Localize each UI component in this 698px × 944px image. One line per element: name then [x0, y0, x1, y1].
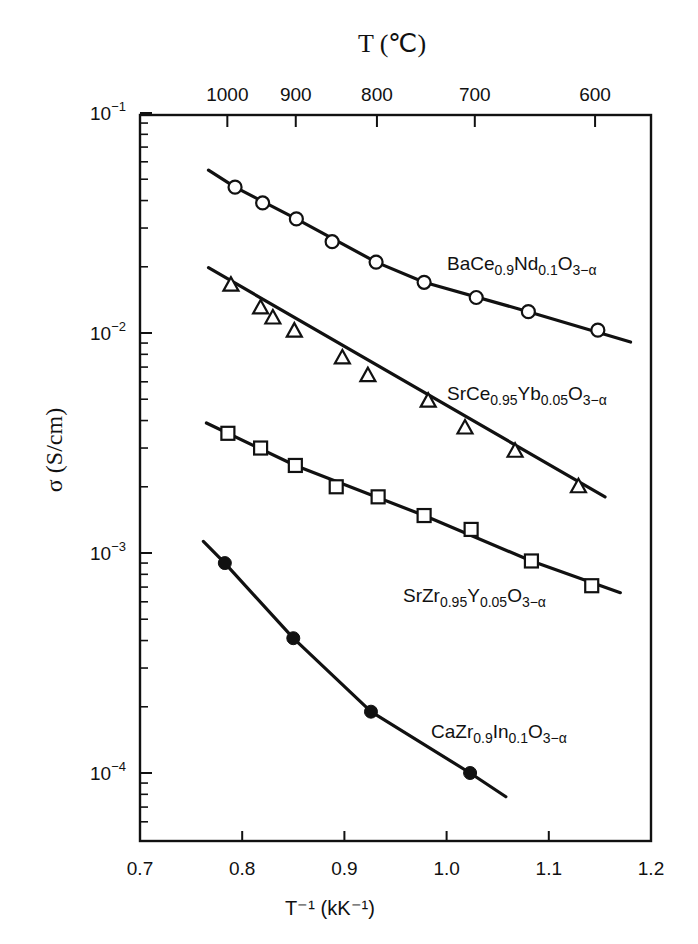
- y-tick-label: 10−1: [90, 99, 126, 124]
- x-tick-label: 0.9: [331, 858, 357, 879]
- data-point: [229, 181, 242, 194]
- series-label: SrZr0.95Y0.05O3−α: [403, 585, 546, 610]
- x-tick-label: 1.1: [536, 858, 562, 879]
- conductivity-arrhenius-chart: T (℃) 10−110−210−310−4 0.70.80.91.01.11.…: [0, 0, 698, 944]
- data-point: [290, 212, 303, 225]
- x-tick-label: 1.2: [638, 858, 664, 879]
- data-point: [421, 393, 436, 407]
- series-label: BaCe0.9Nd0.1O3−α: [447, 253, 597, 278]
- data-point: [287, 632, 300, 645]
- data-point: [218, 557, 231, 570]
- data-point: [360, 368, 375, 382]
- top-tick-label: 900: [280, 84, 312, 105]
- data-point: [372, 490, 385, 503]
- data-point: [522, 305, 535, 318]
- data-point: [418, 509, 431, 522]
- data-point: [591, 324, 604, 337]
- data-point: [508, 443, 523, 457]
- data-point: [256, 196, 269, 209]
- data-point: [364, 705, 377, 718]
- data-point: [585, 579, 598, 592]
- top-temperature-axis: 1000900800700600: [206, 84, 611, 127]
- y-axis: 10−110−210−310−4: [90, 99, 152, 822]
- data-point: [254, 442, 267, 455]
- top-tick-label: 700: [459, 84, 491, 105]
- y-axis-label: σ (S/cm): [41, 408, 67, 492]
- series-label: CaZr0.9In0.1O3−α: [431, 721, 567, 746]
- data-point: [457, 420, 472, 434]
- y-tick-label: 10−2: [90, 319, 126, 344]
- series-label: SrCe0.95Yb0.05O3−α: [447, 383, 607, 408]
- data-point: [326, 235, 339, 248]
- y-tick-label: 10−3: [90, 539, 126, 564]
- series-3: [203, 541, 506, 796]
- x-tick-label: 1.0: [433, 858, 459, 879]
- x-axis: 0.70.80.91.01.11.2: [127, 831, 664, 879]
- series-1: [208, 268, 605, 497]
- top-tick-label: 600: [579, 84, 611, 105]
- x-tick-label: 0.7: [127, 858, 153, 879]
- data-point: [289, 459, 302, 472]
- top-tick-label: 1000: [206, 84, 248, 105]
- data-point: [464, 767, 477, 780]
- top-axis-title: T (℃): [358, 29, 426, 58]
- data-point: [465, 523, 478, 536]
- x-axis-label: T⁻¹ (kK⁻¹): [285, 897, 375, 919]
- y-tick-label: 10−4: [90, 759, 126, 784]
- data-point: [470, 291, 483, 304]
- data-point: [370, 256, 383, 269]
- data-point: [525, 554, 538, 567]
- top-tick-label: 800: [361, 84, 393, 105]
- series-2: [206, 423, 620, 593]
- x-tick-label: 0.8: [229, 858, 255, 879]
- data-point: [330, 480, 343, 493]
- data-point: [221, 427, 234, 440]
- data-point: [287, 323, 302, 337]
- data-point: [335, 350, 350, 364]
- data-point: [418, 276, 431, 289]
